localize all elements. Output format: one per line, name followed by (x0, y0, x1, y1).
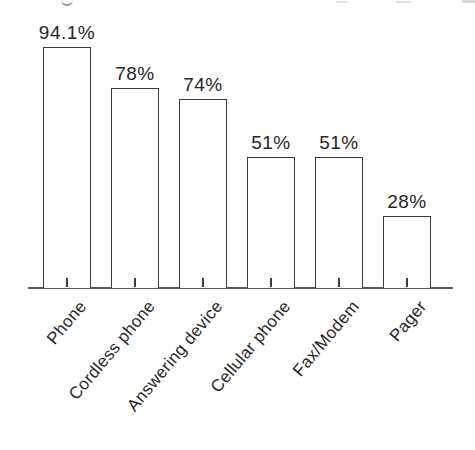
value-label-0: 94.1% (27, 23, 107, 44)
axis-tick-0 (66, 278, 68, 287)
axis-tick-2 (202, 278, 204, 287)
bar-2 (179, 99, 227, 288)
bar-chart-figure: 94.1%Phone78%Cordless phone74%Answering … (0, 0, 475, 450)
bar-3 (247, 157, 295, 288)
axis-tick-5 (406, 278, 408, 287)
value-label-5: 28% (367, 192, 447, 213)
category-label-0: Phone (43, 297, 91, 349)
scan-artifact (336, 1, 348, 3)
axis-tick-1 (134, 278, 136, 287)
category-label-4: Fax/Modem (289, 297, 364, 381)
axis-tick-4 (338, 278, 340, 287)
value-label-2: 74% (163, 75, 243, 96)
scan-artifact (396, 1, 411, 3)
bar-0 (43, 47, 91, 288)
axis-tick-3 (270, 278, 272, 287)
scan-artifact (462, 0, 475, 3)
scan-artifact (61, 0, 73, 6)
bar-4 (315, 157, 363, 288)
value-label-4: 51% (299, 133, 379, 154)
bar-1 (111, 88, 159, 288)
category-label-5: Pager (386, 297, 431, 346)
